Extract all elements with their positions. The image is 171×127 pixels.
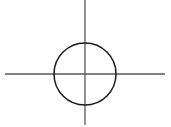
figure-canvas (0, 0, 171, 127)
figure-svg (0, 0, 171, 127)
